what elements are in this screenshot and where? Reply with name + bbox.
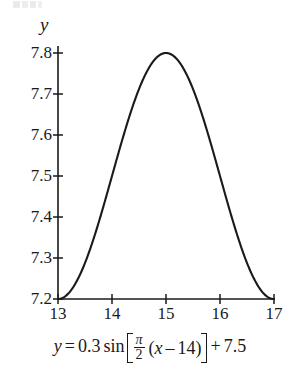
y-tick-label: 7.4 [6,208,52,225]
y-tick-label: 7.6 [6,126,52,143]
equation-fraction: π2 [134,333,145,363]
equation-function: sin [103,336,124,356]
equation-bracket-group: π2(x–14) [127,333,207,363]
equation-minus: – [166,338,175,358]
equation-inner-expression: (x–14) [149,339,202,357]
sine-curve [58,53,274,299]
x-tick-label: 15 [146,305,186,322]
equation-caption: y=0.3sinπ2(x–14)+7.5 [0,333,300,363]
y-tick-label: 7.3 [6,249,52,266]
y-axis-label: y [40,15,48,34]
fraction-numerator: π [134,333,145,347]
equation-vertical-shift: 7.5 [224,336,247,356]
x-tick-label: 14 [92,305,132,322]
equation-amplitude: 0.3 [78,336,101,356]
equation-plus: + [211,336,221,356]
equation-equals: = [65,336,75,356]
x-tick-label: 13 [38,305,78,322]
x-tick-label: 17 [254,305,294,322]
x-tick-label: 16 [200,305,240,322]
equation-lhs: y [54,336,62,356]
fraction-denominator: 2 [134,347,145,362]
inner-variable: x [155,338,163,358]
equation-phase: 14 [178,338,196,358]
y-tick-label: 7.8 [6,44,52,61]
close-paren: ) [196,338,202,358]
y-tick-label: 7.7 [6,85,52,102]
y-tick-label: 7.5 [6,167,52,184]
figure-container: y 7.27.37.47.57.67.77.8 1314151617 y=0.3… [0,0,300,371]
